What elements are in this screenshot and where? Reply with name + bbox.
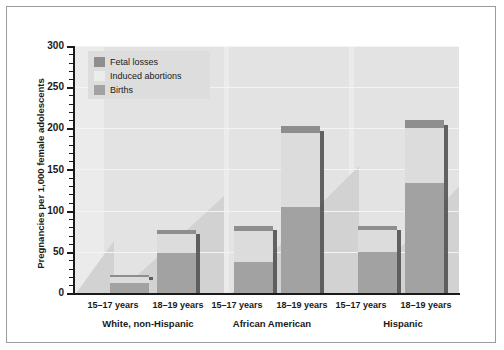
y-tick-minor bbox=[69, 71, 73, 72]
x-group-label-hispanic: Hispanic bbox=[370, 318, 436, 329]
y-tick-minor bbox=[69, 285, 73, 286]
y-tick-minor bbox=[69, 63, 73, 64]
bar-segment-births bbox=[405, 183, 444, 293]
legend-label-induced-abortions: Induced abortions bbox=[110, 71, 182, 81]
x-tick-label-hispanic-18-19: 18–19 years bbox=[393, 300, 459, 310]
y-tick-minor bbox=[69, 269, 73, 270]
x-group-label-african-american: African American bbox=[225, 318, 319, 329]
y-tick-minor bbox=[69, 120, 73, 121]
bar-segment-induced-abortions bbox=[110, 277, 149, 283]
y-axis-label-300: 300 bbox=[36, 41, 64, 51]
bar-hispanic-15-17 bbox=[358, 226, 397, 293]
legend-item-fetal-losses: Fetal losses bbox=[94, 55, 204, 68]
y-tick-minor bbox=[69, 95, 73, 96]
y-axis-title: Pregnancies per 1,000 female adolescents bbox=[35, 54, 46, 294]
chart-screenshot: Fetal losses Induced abortions Births bbox=[0, 0, 504, 350]
bar-segment-fetal-losses bbox=[234, 226, 273, 231]
y-tick-0 bbox=[67, 293, 73, 295]
bar-segment-fetal-losses bbox=[110, 275, 149, 277]
bar-white-18-19 bbox=[157, 230, 196, 293]
bar-white-15-17 bbox=[110, 275, 149, 293]
x-tick-label-aa-15-17: 15–17 years bbox=[204, 300, 270, 310]
legend-label-births: Births bbox=[110, 85, 133, 95]
legend-swatch-induced-abortions bbox=[94, 71, 105, 81]
bar-segment-births bbox=[358, 252, 397, 293]
bar-segment-fetal-losses bbox=[358, 226, 397, 230]
plot-area: Fetal losses Induced abortions Births bbox=[74, 46, 459, 293]
bar-segment-fetal-losses bbox=[281, 126, 320, 133]
x-tick-label-hispanic-15-17: 15–17 years bbox=[328, 300, 394, 310]
legend-swatch-fetal-losses bbox=[94, 57, 105, 67]
y-tick-minor bbox=[69, 244, 73, 245]
chart-legend: Fetal losses Induced abortions Births bbox=[88, 51, 210, 99]
bar-hispanic-18-19 bbox=[405, 120, 444, 293]
y-tick-minor bbox=[69, 178, 73, 179]
y-tick-minor bbox=[69, 186, 73, 187]
bar-african-american-15-17 bbox=[234, 226, 273, 293]
gridline-200 bbox=[74, 128, 459, 129]
y-tick-minor bbox=[69, 194, 73, 195]
bar-segment-induced-abortions bbox=[281, 133, 320, 207]
x-axis-line bbox=[73, 293, 460, 295]
bar-segment-induced-abortions bbox=[157, 234, 196, 253]
y-tick-minor bbox=[69, 153, 73, 154]
bar-segment-fetal-losses bbox=[405, 120, 444, 128]
x-group-label-white-non-hispanic: White, non-Hispanic bbox=[95, 318, 201, 329]
y-tick-minor bbox=[69, 104, 73, 105]
y-tick-minor bbox=[69, 203, 73, 204]
bar-segment-induced-abortions bbox=[234, 231, 273, 262]
y-tick-150 bbox=[67, 169, 73, 171]
y-tick-200 bbox=[67, 128, 73, 130]
y-tick-50 bbox=[67, 252, 73, 254]
y-tick-minor bbox=[69, 277, 73, 278]
gridline-100 bbox=[74, 211, 459, 212]
bar-segment-induced-abortions bbox=[358, 230, 397, 252]
bar-segment-births bbox=[234, 262, 273, 293]
gridline-300 bbox=[74, 46, 459, 47]
y-tick-minor bbox=[69, 145, 73, 146]
x-tick-label-aa-18-19: 18–19 years bbox=[269, 300, 335, 310]
bar-segment-induced-abortions bbox=[405, 128, 444, 183]
legend-label-fetal-losses: Fetal losses bbox=[110, 57, 158, 67]
y-tick-minor bbox=[69, 161, 73, 162]
y-tick-minor bbox=[69, 136, 73, 137]
bar-segment-births bbox=[110, 283, 149, 293]
y-tick-minor bbox=[69, 227, 73, 228]
x-tick-label-white-15-17: 15–17 years bbox=[80, 300, 146, 310]
bar-segment-births bbox=[281, 207, 320, 293]
y-tick-minor bbox=[69, 112, 73, 113]
y-tick-minor bbox=[69, 236, 73, 237]
y-tick-300 bbox=[67, 46, 73, 48]
bar-african-american-18-19 bbox=[281, 126, 320, 293]
legend-item-induced-abortions: Induced abortions bbox=[94, 69, 204, 82]
y-tick-minor bbox=[69, 260, 73, 261]
x-tick-label-white-18-19: 18–19 years bbox=[145, 300, 211, 310]
gridline-150 bbox=[74, 169, 459, 170]
y-axis-line bbox=[73, 46, 75, 294]
y-tick-minor bbox=[69, 219, 73, 220]
legend-swatch-births bbox=[94, 85, 105, 95]
y-tick-minor bbox=[69, 79, 73, 80]
y-tick-minor bbox=[69, 54, 73, 55]
bar-segment-births bbox=[157, 253, 196, 293]
bar-segment-fetal-losses bbox=[157, 230, 196, 234]
y-tick-250 bbox=[67, 87, 73, 89]
legend-item-births: Births bbox=[94, 83, 204, 96]
y-tick-100 bbox=[67, 211, 73, 213]
